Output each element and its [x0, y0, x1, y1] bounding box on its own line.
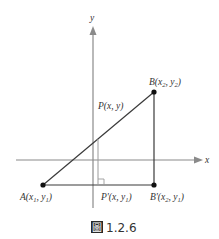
coordinate-diagram: x y B(x2, y2) P(x, y) A(x1, y1) P'(x, y1… — [0, 0, 219, 239]
label-B-prime: B'(x2, y1) — [150, 192, 184, 203]
y-axis-label: y — [89, 13, 95, 23]
point-A — [40, 182, 45, 187]
caption-glyph: 圖 — [92, 222, 102, 233]
point-B — [151, 89, 156, 94]
label-A: A(x1, y1) — [19, 192, 52, 203]
y-axis-arrow-icon — [90, 26, 97, 35]
y-axis: y — [89, 13, 97, 208]
point-B-prime — [151, 182, 156, 187]
x-axis-arrow-icon — [194, 157, 203, 164]
x-axis: x — [16, 155, 210, 165]
label-B: B(x2, y2) — [149, 77, 181, 88]
label-P-prime: P'(x, y1) — [100, 192, 132, 203]
label-P: P(x, y) — [97, 101, 123, 112]
x-axis-label: x — [204, 155, 210, 165]
right-angle-marker — [98, 179, 104, 185]
figure-caption: 圖 1.2.6 — [91, 221, 137, 235]
caption-number: 1.2.6 — [106, 221, 137, 235]
